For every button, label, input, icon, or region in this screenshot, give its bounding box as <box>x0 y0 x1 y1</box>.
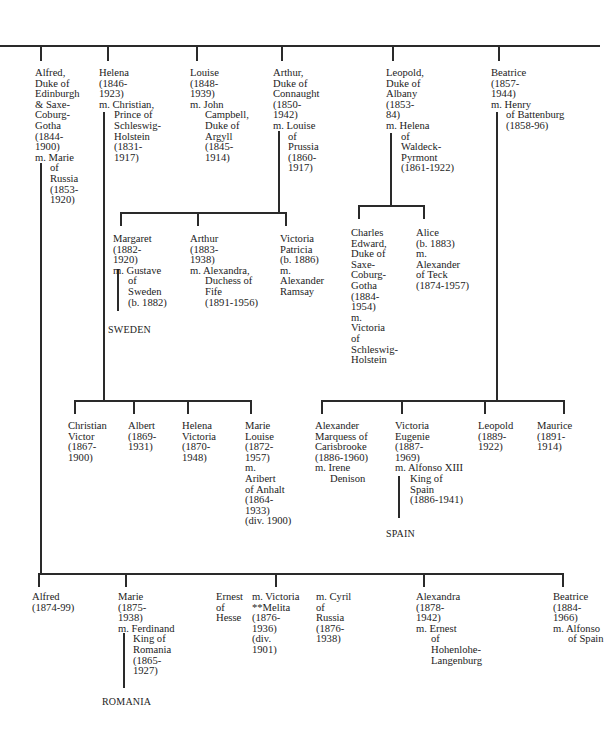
person-albert: Albert(1869-1931) <box>128 421 156 453</box>
person-alfred-edinburgh: Alfred,Duke ofEdinburgh& Saxe-Coburg-Got… <box>35 68 80 206</box>
person-victoria-eugenie: VictoriaEugenie(1887-1969)m. Alfonso XII… <box>395 421 463 506</box>
person-name-line: 1900) <box>68 453 107 464</box>
person-name-line: Charles <box>351 228 398 239</box>
drop-victoria-eugenie <box>401 400 403 414</box>
spouse-line: 1914) <box>190 153 249 164</box>
person-name-line: m. Cyril <box>316 592 351 603</box>
person-name-line: 1948) <box>182 453 216 464</box>
person-alexandra: Alexandra(1878-1942)m. ErnestofHohenlohe… <box>416 592 482 666</box>
person-name-line: m. Victoria <box>252 592 299 603</box>
drop-alexander-carisbrooke <box>321 400 323 414</box>
person-marie: Marie(1875-1938)m. FerdinandKing ofRoman… <box>118 592 175 677</box>
spouse-line: 1917) <box>273 163 320 174</box>
person-name-line: Leopold, <box>386 68 454 79</box>
person-name-line: 1931) <box>128 442 156 453</box>
drop-arthur <box>281 45 283 61</box>
person-name-line: 1938) <box>316 634 351 645</box>
person-margaret: Margaret(1882-1920)m. GustaveofSweden(b.… <box>113 234 167 308</box>
spouse-line: 1920) <box>35 195 80 206</box>
person-name-line: Christian <box>68 421 107 432</box>
person-victoria-patricia: VictoriaPatricia(b. 1886)m.AlexanderRams… <box>280 234 324 298</box>
person-alice: Alice(b. 1883)m.Alexanderof Teck(1874-19… <box>416 228 469 292</box>
person-name-line: (1874-1957) <box>416 281 469 292</box>
person-arthur-connaught: Arthur,Duke ofConnaught(1850-1942)m. Lou… <box>273 68 320 174</box>
person-name-line: 1922) <box>478 442 513 453</box>
person-name-line: Margaret <box>113 234 167 245</box>
person-name-line: Ernest <box>216 592 243 603</box>
person-beatrice: Beatrice(1857-1944)m. Henryof Battenburg… <box>491 68 564 132</box>
spouse-line: (1858-96) <box>491 121 564 132</box>
spouse-line: 1917) <box>99 153 161 164</box>
drop-beatrice-jr <box>562 573 564 587</box>
drop-alice <box>423 205 425 219</box>
drop-marie-louise <box>250 400 252 414</box>
drop-albert <box>133 400 135 414</box>
spouse-line: (1891-1956) <box>190 298 258 309</box>
person-beatrice-jr: Beatrice(1884-1966)m. Alfonsoof Spain <box>553 592 604 645</box>
drop-victoria-melita <box>275 573 277 587</box>
drop-charles-edward <box>358 205 360 219</box>
person-victoria-melita: m. Victoria**Melita(1876-1936)(div.1901) <box>252 592 299 656</box>
drop-christian-victor <box>74 400 76 414</box>
person-christian-victor: ChristianVictor(1867-1900) <box>68 421 107 463</box>
spouse-line: Duke of <box>190 121 249 132</box>
person-cyril: m. CyrilofRussia(1876-1938) <box>316 592 351 645</box>
person-alfred-jr: Alfred(1874-99) <box>32 592 74 613</box>
spouse-line: (1861-1922) <box>386 163 454 174</box>
person-name-line: 1901) <box>252 645 299 656</box>
person-name-line: Beatrice <box>553 592 604 603</box>
drop-margaret <box>120 212 122 226</box>
drop-alfred <box>40 45 42 61</box>
spouse-line: Duchess of <box>190 276 258 287</box>
person-charles-edward: CharlesEdward,Duke ofSaxe-Coburg-Gotha(1… <box>351 228 398 366</box>
spouse-line: (1886-1941) <box>395 495 463 506</box>
drop-leopold <box>392 45 394 61</box>
drop-helena-victoria <box>187 400 189 414</box>
drop-leopold-jr <box>484 400 486 414</box>
person-louise: Louise(1848-1939)m. JohnCampbell,Duke of… <box>190 68 249 163</box>
person-maurice: Maurice(1891-1914) <box>537 421 572 453</box>
top-sibling-bar <box>0 45 600 47</box>
spouse-line: m. Louise <box>273 121 320 132</box>
person-name-line: Marie <box>118 592 175 603</box>
person-name-line: Gotha <box>35 121 80 132</box>
person-name-line: (1874-99) <box>32 603 74 614</box>
helena-children-bar <box>74 400 251 402</box>
spouse-line: Sweden <box>113 287 167 298</box>
person-name-line: Marie <box>245 421 291 432</box>
person-name-line: Beatrice <box>491 68 564 79</box>
spouse-line: (b. 1882) <box>113 298 167 309</box>
person-name-line: Albert <box>128 421 156 432</box>
person-name-line: Alexander <box>315 421 368 432</box>
person-name-line: Alfred <box>32 592 74 603</box>
leopold-children-bar <box>358 205 425 207</box>
drop-victoria-patricia <box>285 212 287 226</box>
person-marie-louise: MarieLouise(1872-1957)m.Aribertof Anhalt… <box>245 421 291 527</box>
spouse-line: m. Gustave <box>113 266 167 277</box>
spouse-line: m. Helena <box>386 121 454 132</box>
beatrice-children-bar <box>321 400 565 402</box>
beatrice-descent-line <box>496 112 498 401</box>
spouse-line: m. Ernest <box>416 624 482 635</box>
drop-alfred-jr <box>38 573 40 587</box>
person-arthur-jr: Arthur(1883-1938)m. Alexandra,Duchess of… <box>190 234 258 308</box>
person-name-line: Victoria <box>395 421 463 432</box>
drop-marie <box>125 573 127 587</box>
drop-louise <box>196 45 198 61</box>
spouse-line: Romania <box>118 645 175 656</box>
person-name-line: Holstein <box>351 355 398 366</box>
spouse-line: Langenburg <box>416 656 482 667</box>
person-name-line: Alexandra <box>416 592 482 603</box>
drop-arthur-jr <box>197 212 199 226</box>
person-name-line: Helena <box>99 68 161 79</box>
person-name-line: Arthur, <box>273 68 320 79</box>
alfred-children-bar <box>38 573 563 575</box>
person-name-line: 1914) <box>537 442 572 453</box>
person-name-line: Leopold <box>478 421 513 432</box>
drop-beatrice <box>498 45 500 61</box>
person-name-line: Aribert <box>245 474 291 485</box>
spouse-line: Hohenlohe- <box>416 645 482 656</box>
drop-helena <box>107 45 109 61</box>
person-name-line: Alice <box>416 228 469 239</box>
person-leopold-albany: Leopold,Duke ofAlbany(1853-84)m. Helenao… <box>386 68 454 174</box>
